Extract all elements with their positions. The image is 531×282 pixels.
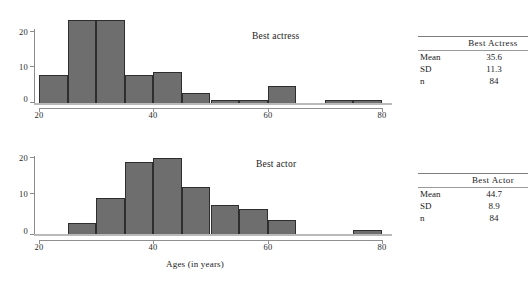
row-label-sd: SD [418,200,460,212]
plot-area-best-actor [39,144,382,234]
histogram-bar [125,75,154,103]
histogram-bar [182,93,211,103]
y-tick-20 [30,31,34,32]
row-value-sd: 8.9 [460,200,528,212]
histogram-bar [96,20,125,104]
x-tick-label-60: 60 [258,110,278,120]
x-tick-label-20: 20 [29,110,49,120]
y-tick-20 [30,157,34,158]
histogram-bar [68,20,97,104]
row-value-mean: 35.6 [460,51,528,63]
histogram-bar [268,86,297,103]
table-header-row: Best Actor [418,174,528,187]
histogram-bar [239,209,268,234]
y-tick-label-0: 0 [12,226,28,236]
y-tick-label-10: 10 [12,62,28,72]
y-tick-10 [30,66,34,67]
y-axis-line [34,156,35,234]
table-header-best-actress: Best Actress [458,38,528,48]
y-tick-label-10: 10 [12,189,28,199]
table-header-row: Best Actress [418,37,528,50]
row-label-n: n [418,212,460,224]
chart-panel-best-actor: 20 10 0 20 40 60 80 Best actor Ages [0,142,400,282]
row-value-mean: 44.7 [460,188,528,200]
row-label-mean: Mean [418,188,460,200]
x-axis-line [34,234,392,236]
table-header-corner [418,175,458,185]
histogram-bar [268,220,297,234]
x-axis-inner-line [39,108,383,109]
x-tick-label-80: 80 [372,110,392,120]
x-tick-label-20: 20 [29,242,49,252]
table-row: SD 8.9 [418,200,528,212]
x-tick-label-40: 40 [143,242,163,252]
histogram-bar [96,198,125,234]
histogram-bar [211,205,240,234]
x-axis-inner-line [39,240,383,241]
table-row: n 84 [418,75,528,87]
chart-panel-best-actress: 20 10 0 20 40 60 80 [0,4,400,124]
y-axis-line [34,29,35,103]
series-annotation-best-actress: Best actress [252,31,300,41]
plot-area-best-actress [39,16,382,103]
histogram-bar [153,72,182,103]
x-tick-label-60: 60 [258,242,278,252]
histogram-bar [182,187,211,234]
table-row: n 84 [418,212,528,224]
series-annotation-best-actor: Best actor [256,159,296,169]
histogram-bar [153,158,182,234]
stats-table-best-actor: Best Actor Mean 44.7 SD 8.9 n 84 [418,173,528,224]
stats-table-best-actress: Best Actress Mean 35.6 SD 11.3 n 84 [418,36,528,87]
x-tick-label-40: 40 [143,110,163,120]
row-value-sd: 11.3 [460,63,528,75]
y-tick-label-20: 20 [12,27,28,37]
histogram-bar [125,162,154,234]
x-axis-line [34,103,392,105]
histogram-bar [68,223,97,234]
table-header-best-actor: Best Actor [458,175,528,185]
table-header-corner [418,38,458,48]
histogram-bar [39,75,68,103]
figure-root: 20 10 0 20 40 60 80 [0,0,531,282]
table-row: Mean 35.6 [418,51,528,63]
x-tick-label-80: 80 [372,242,392,252]
row-value-n: 84 [460,212,528,224]
row-label-sd: SD [418,63,460,75]
y-tick-label-20: 20 [12,153,28,163]
y-tick-label-0: 0 [12,94,28,104]
row-value-n: 84 [460,75,528,87]
x-axis-title: Ages (in years) [166,259,224,269]
y-tick-10 [30,193,34,194]
row-label-n: n [418,75,460,87]
table-row: Mean 44.7 [418,188,528,200]
table-row: SD 11.3 [418,63,528,75]
row-label-mean: Mean [418,51,460,63]
